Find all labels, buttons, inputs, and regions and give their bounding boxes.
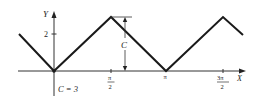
wave-line: [19, 17, 243, 71]
x-tick-3pi-half: 3π 2: [217, 74, 229, 90]
amplitude-label: C: [121, 40, 128, 50]
x-tick-pi-half: π 2: [108, 74, 115, 90]
y-tick-2: 2: [44, 30, 48, 39]
x-tick-pi: π: [164, 73, 168, 80]
c-value-label: C = 3: [58, 84, 78, 94]
origin-point: [52, 69, 56, 73]
svg-text:2: 2: [221, 83, 224, 90]
svg-text:3π: 3π: [217, 74, 224, 81]
x-axis-label: X: [236, 74, 243, 83]
y-axis-label: Y: [43, 9, 49, 19]
svg-text:π: π: [108, 74, 112, 81]
svg-text:2: 2: [109, 83, 112, 90]
y-axis: [52, 11, 57, 96]
chart: Y 2 X π 2 π 3π 2 C = 3 C: [0, 0, 254, 101]
